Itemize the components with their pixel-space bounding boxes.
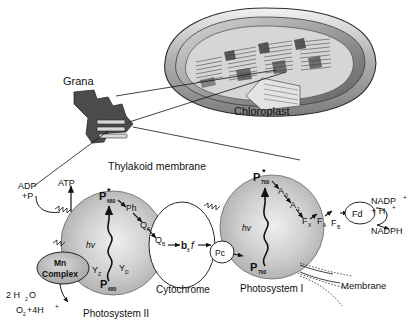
yz-subscript: Z (98, 271, 101, 277)
chloroplast-label: Chloroplast (234, 105, 290, 117)
a1-label: A (290, 200, 296, 210)
atp-label: ATP (58, 178, 75, 188)
nadp-oxidized-superscript: + (403, 194, 407, 201)
oxygen-tail: +4H (27, 305, 44, 315)
p700-excited-label: P (253, 171, 260, 183)
psii-photon-label: hv (86, 240, 96, 250)
photosynthesis-diagram: Chloroplast Grana Thylakoid membrane (0, 0, 417, 331)
photosystem-2-label: Photosystem II (83, 308, 149, 319)
yd-subscript: D (125, 269, 129, 275)
qa-label: Q (140, 220, 147, 230)
phosphate-label: +P (22, 191, 33, 201)
thylakoid-membrane-title: Thylakoid membrane (108, 160, 206, 172)
mn-complex-line1: Mn (54, 258, 66, 268)
nadp-proton-label: + H (371, 206, 385, 216)
pheophytin-label: Ph (126, 203, 137, 213)
p680-ground-label: P (100, 278, 107, 290)
p700-ground-subscript: 700 (258, 269, 267, 275)
figure-root: Chloroplast Grana Thylakoid membrane (0, 0, 417, 331)
water-tail: O (29, 290, 36, 300)
p700-excited-subscript: 700 (261, 179, 270, 185)
b6f-subscript: 6 (187, 247, 190, 253)
nadp-proton-superscript: + (392, 204, 396, 211)
a1-subscript: 1 (297, 206, 300, 212)
a0-label: A (278, 186, 284, 196)
grana-lamellae (97, 120, 127, 138)
ferredoxin-label: Fd (352, 209, 363, 219)
p680-ground-subscript: 680 (108, 286, 117, 292)
mn-complex-line2: Complex (42, 269, 78, 279)
psi-photon-label: hv (242, 223, 252, 233)
cytochrome-label: Cytochrome (156, 284, 210, 295)
adp-label: ADP (18, 181, 37, 191)
nadph-label: NADPH (371, 226, 403, 236)
p700-excited-star: * (262, 167, 266, 177)
oxygen-subscript: 2 (23, 311, 26, 317)
p680-excited-star: * (107, 186, 111, 196)
p700-ground-label: P (250, 261, 257, 273)
water-label: 2 H (6, 290, 20, 300)
membrane-label: Membrane (341, 280, 386, 291)
grana-label: Grana (63, 75, 94, 87)
qb-label: Q (155, 235, 162, 245)
water-subscript: 2 (25, 296, 28, 302)
p680-excited-subscript: 680 (107, 198, 116, 204)
oxygen-label: O (16, 305, 23, 315)
plastocyanin-label: Pc (215, 248, 226, 258)
mn-complex-ellipse (37, 252, 89, 284)
a0-subscript: 0 (285, 192, 288, 198)
oxygen-superscript: + (55, 303, 59, 310)
photosystem-1-label: Photosystem I (240, 283, 303, 294)
p680-excited-label: P (99, 190, 106, 202)
